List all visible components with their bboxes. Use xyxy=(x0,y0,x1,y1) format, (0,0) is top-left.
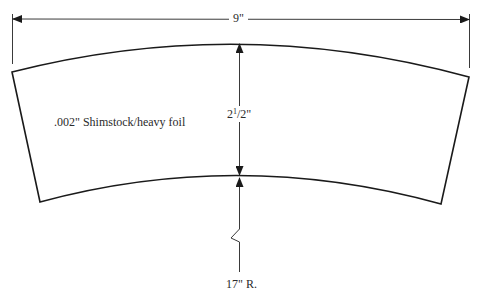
material-label: .002" Shimstock/heavy foil xyxy=(54,116,185,128)
band-height-label: 21/2" xyxy=(226,106,252,122)
radius-label: 17" R. xyxy=(226,278,257,290)
band-height-unit: " xyxy=(246,107,251,121)
template-drawing xyxy=(0,0,481,298)
overall-width-label: 9" xyxy=(229,12,248,24)
overall-width-value: 9" xyxy=(233,11,244,25)
radius-leader-line xyxy=(231,178,240,272)
